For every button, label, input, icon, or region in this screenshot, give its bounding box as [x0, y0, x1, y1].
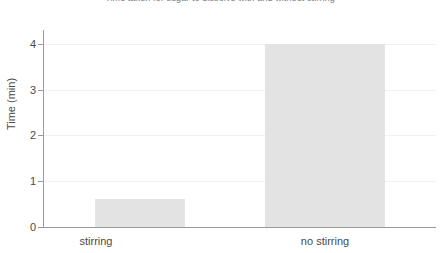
y-tick-label-1: 1: [6, 176, 36, 187]
bar-no-stirring: [265, 44, 385, 227]
y-tick-2: 2: [0, 130, 36, 141]
bar-chart-figure: Time taken for sugar to dissolve with an…: [0, 0, 440, 253]
y-tick-4: 4: [0, 39, 36, 50]
chart-title: Time taken for sugar to dissolve with an…: [0, 0, 440, 3]
x-tick-label-stirring: stirring: [50, 235, 142, 247]
y-tick-label-4: 4: [6, 39, 36, 50]
y-tick-label-3: 3: [6, 85, 36, 96]
bar-stirring: [95, 199, 185, 227]
y-tick-label-2: 2: [6, 130, 36, 141]
y-tick-1: 1: [0, 176, 36, 187]
y-tick-label-0: 0: [6, 222, 36, 233]
y-axis-title: Time (min): [5, 49, 17, 159]
plot-area: [44, 30, 436, 227]
y-tick-3: 3: [0, 85, 36, 96]
x-tick-label-no-stirring: no stirring: [259, 235, 391, 247]
y-tick-0: 0: [0, 222, 36, 233]
x-axis-line: [44, 227, 436, 228]
